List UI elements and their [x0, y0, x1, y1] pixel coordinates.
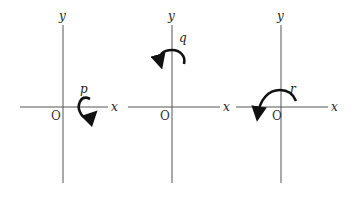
panel-r: y x O r: [236, 9, 338, 183]
y-axis-label: y: [167, 9, 175, 23]
x-axis-label: x: [111, 100, 118, 114]
rotation-label-q: q: [179, 31, 187, 45]
rotation-arrow-p-icon: [79, 98, 92, 118]
origin-label: O: [272, 109, 282, 123]
origin-label: O: [51, 109, 61, 123]
origin-label: O: [160, 109, 170, 123]
y-axis-label: y: [58, 9, 66, 23]
rotation-diagram: y x O p y x O q y x O r: [0, 0, 356, 200]
y-axis-label: y: [276, 9, 284, 23]
x-axis-label: x: [223, 100, 230, 114]
x-axis-label: x: [331, 100, 338, 114]
panel-q: y x O q: [128, 9, 230, 183]
rotation-label-p: p: [80, 82, 88, 96]
panel-p: y x O p: [20, 9, 118, 183]
